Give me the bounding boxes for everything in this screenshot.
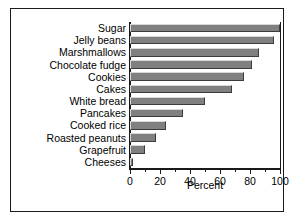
bar-series — [130, 22, 280, 168]
y-axis-tick-label: Sugar — [98, 22, 126, 34]
y-axis-tick-label: Cooked rice — [70, 119, 126, 131]
y-axis-category-labels: SugarJelly beansMarshmallowsChocolate fu… — [23, 22, 126, 168]
y-axis-tick-label: Cakes — [96, 83, 126, 95]
bar — [130, 121, 166, 130]
y-axis-tick-label: Pancakes — [80, 107, 126, 119]
x-axis-minor-tick-mark — [145, 169, 146, 172]
y-axis-tick-label: White bread — [69, 95, 126, 107]
y-axis-tick-label: Cheeses — [85, 156, 126, 168]
x-axis-tick-mark — [130, 169, 131, 174]
x-axis-minor-tick-mark — [235, 169, 236, 172]
bar-row — [130, 107, 280, 119]
bar-row — [130, 83, 280, 95]
bar-row — [130, 156, 280, 168]
bar — [130, 36, 274, 45]
bar-row — [130, 95, 280, 107]
bar-row — [130, 46, 280, 58]
bar — [130, 60, 252, 69]
x-axis-tick-mark — [190, 169, 191, 174]
figure-border: SugarJelly beansMarshmallowsChocolate fu… — [10, 8, 284, 212]
bar-row — [130, 58, 280, 70]
x-axis-title: Percent — [129, 179, 281, 191]
bar — [130, 72, 244, 81]
x-axis-minor-tick-mark — [205, 169, 206, 172]
x-axis-tick-mark — [250, 169, 251, 174]
bar-row — [130, 71, 280, 83]
bar — [130, 145, 145, 154]
bar — [130, 109, 183, 118]
bar-row — [130, 22, 280, 34]
x-axis-minor-tick-mark — [175, 169, 176, 172]
x-axis-tick-mark — [280, 169, 281, 174]
y-axis-tick-label: Roasted peanuts — [47, 132, 126, 144]
bar — [130, 24, 280, 33]
y-axis-tick-label: Cookies — [88, 71, 126, 83]
y-axis-tick-label: Grapefruit — [79, 144, 126, 156]
bar — [130, 85, 232, 94]
y-axis-tick-label: Marshmallows — [59, 46, 126, 58]
y-axis-tick-label: Chocolate fudge — [50, 59, 126, 71]
x-axis-tick-mark — [220, 169, 221, 174]
bar — [130, 48, 259, 57]
bar-row — [130, 34, 280, 46]
bar — [130, 97, 205, 106]
chart-figure: SugarJelly beansMarshmallowsChocolate fu… — [0, 0, 295, 222]
x-axis-tick-mark — [160, 169, 161, 174]
bar-row — [130, 144, 280, 156]
bar-row — [130, 119, 280, 131]
bar — [130, 133, 156, 142]
x-axis-minor-tick-mark — [265, 169, 266, 172]
bar — [130, 158, 133, 167]
bar-row — [130, 131, 280, 143]
y-axis-tick-label: Jelly beans — [73, 34, 126, 46]
plot-area: 020406080100 — [129, 22, 281, 169]
